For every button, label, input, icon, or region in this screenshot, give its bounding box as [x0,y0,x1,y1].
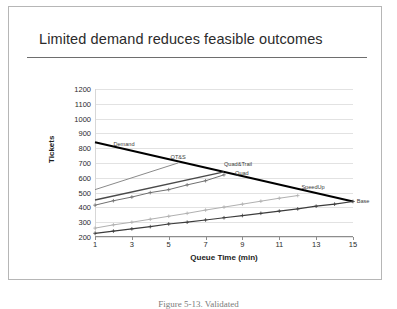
series-marker [148,217,152,221]
series-label-demand: Demand [113,141,134,147]
series-marker [112,199,116,203]
series-marker [167,214,171,218]
series-marker [277,209,281,213]
series-label-speedup: SpeedUp [301,184,324,190]
series-marker [277,196,281,200]
x-tick-mark [132,237,133,240]
series-marker [130,195,134,199]
series-marker [185,212,189,216]
line-chart: Tickets Queue Time (min) 200300400500600… [45,77,375,273]
title-divider [27,57,367,58]
x-tick-label: 9 [240,240,244,249]
y-tick-label: 1200 [74,85,91,94]
series-marker [222,216,226,220]
series-marker [93,203,97,207]
x-tick-label: 13 [312,240,320,249]
series-marker [241,202,245,206]
series-marker [112,229,116,233]
series-marker [314,204,318,208]
series-marker [204,179,208,183]
series-marker [222,205,226,209]
series-marker [167,188,171,192]
y-tick-label: 300 [78,218,91,227]
y-tick-label: 600 [78,173,91,182]
series-marker [148,191,152,195]
series-line [95,172,224,200]
y-tick-label: 500 [78,188,91,197]
figure-caption: Figure 5-13. Validated [0,299,397,309]
y-tick-label: 1100 [75,99,91,108]
series-marker [241,214,245,218]
x-tick-mark [316,237,317,240]
x-axis-title: Queue Time (min) [95,253,353,262]
series-marker [130,220,134,224]
series-marker [185,183,189,187]
y-tick-label: 400 [78,203,91,212]
series-marker [148,225,152,229]
slide-frame: Limited demand reduces feasible outcomes… [8,6,382,280]
gridline [95,237,353,238]
series-marker [112,223,116,227]
series-marker [185,220,189,224]
x-tick-label: 11 [275,240,283,249]
series-marker [296,207,300,211]
x-tick-label: 1 [93,240,97,249]
y-tick-label: 900 [78,129,91,138]
series-marker [333,202,337,206]
series-marker [222,173,226,177]
series-marker [204,208,208,212]
series-marker [93,232,97,236]
y-tick-label: 200 [78,233,91,242]
y-tick-label: 700 [78,159,91,168]
x-tick-label: 15 [349,240,357,249]
series-label-quad: Quad [235,170,249,176]
x-tick-mark [169,237,170,240]
x-tick-label: 7 [203,240,207,249]
series-label-qt-s: QT&S [171,154,186,160]
x-tick-mark [353,237,354,240]
x-tick-label: 5 [167,240,171,249]
series-line [95,163,178,190]
y-tick-label: 800 [78,144,91,153]
series-marker [296,194,300,198]
series-marker [93,226,97,230]
series-marker [204,218,208,222]
x-tick-mark [242,237,243,240]
x-tick-mark [95,237,96,240]
series-label-quad-trail: Quad&Trail [224,161,252,167]
page-title: Limited demand reduces feasible outcomes [39,31,323,47]
y-tick-label: 1000 [74,114,91,123]
series-label-base: Base [357,198,370,204]
y-axis-title: Tickets [47,136,56,163]
series-marker [259,212,263,216]
series-line [95,196,298,229]
series-marker [167,222,171,226]
x-tick-mark [206,237,207,240]
series-marker [259,199,263,203]
x-tick-label: 3 [130,240,134,249]
x-tick-mark [279,237,280,240]
plot-area: 200300400500600700800900100011001200 135… [95,89,353,237]
series-marker [130,227,134,231]
